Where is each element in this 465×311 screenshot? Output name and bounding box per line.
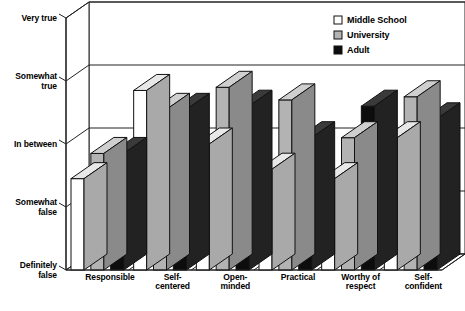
- legend-label-2[interactable]: Adult: [347, 45, 370, 55]
- legend-swatch-0[interactable]: [334, 16, 342, 24]
- legend-label-1[interactable]: University: [347, 30, 390, 40]
- chart-plot-area: [0, 0, 465, 311]
- legend-swatch-2[interactable]: [334, 46, 342, 54]
- tick-mark-4: [59, 266, 66, 270]
- tick-mark-2: [59, 140, 66, 144]
- legend-label-0[interactable]: Middle School: [347, 15, 407, 25]
- y-axis-tick-label-3: Somewhat false: [15, 198, 57, 216]
- y-axis-tick-label-1: Somewhat true: [15, 72, 57, 90]
- y-axis-tick-label-0: Very true: [22, 14, 57, 23]
- y-axis-tick-label-2: In between: [14, 140, 57, 149]
- bar-middle-school-group-0[interactable]: [71, 163, 107, 270]
- legend-swatch-1[interactable]: [334, 31, 342, 39]
- x-axis-category-label-5: Self- confident: [378, 273, 465, 292]
- tick-mark-1: [59, 77, 66, 81]
- tick-mark-0: [59, 14, 66, 18]
- chart-container: Very trueSomewhat trueIn betweenSomewhat…: [0, 0, 465, 311]
- y-axis-tick-label-4: Definitely false: [20, 261, 57, 279]
- tick-mark-3: [59, 203, 66, 207]
